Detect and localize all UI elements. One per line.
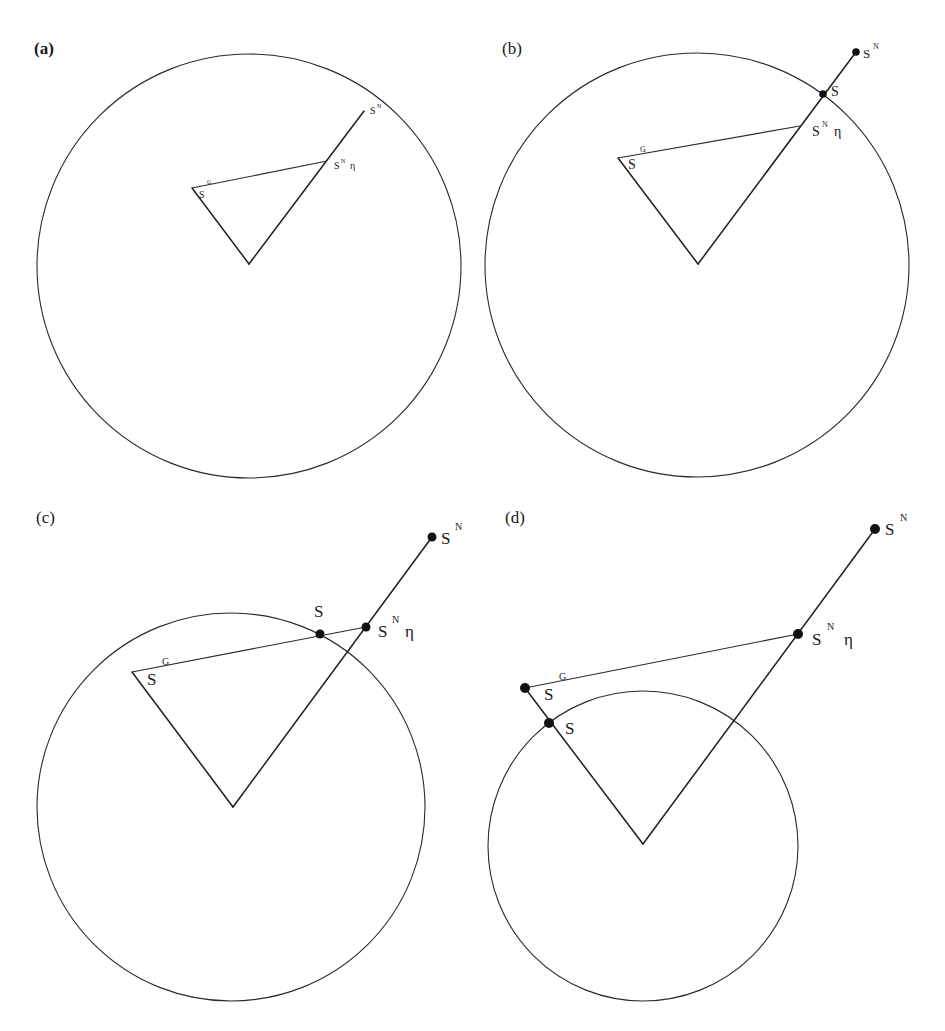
point-label-sg-b: S G [628, 145, 646, 172]
edge-apex-to-sg-b [618, 158, 698, 264]
svg-text:η: η [844, 630, 853, 649]
point-label-sg-a: S G [199, 179, 212, 200]
svg-text:G: G [207, 179, 212, 185]
svg-text:S: S [370, 105, 376, 116]
point-s-dot-d [544, 718, 554, 728]
svg-text:S: S [147, 670, 156, 689]
point-sneta-dot-d [793, 629, 803, 639]
point-label-s-b: S [831, 84, 839, 99]
svg-text:N: N [873, 42, 879, 51]
svg-text:N: N [392, 614, 399, 625]
point-sn-dot-b [852, 48, 860, 56]
point-label-sn-c: S N [441, 521, 462, 548]
constraint-circle-a [37, 54, 461, 478]
panel-d: (d) S G S S N η S N [488, 508, 907, 1001]
edge-apex-to-sg-d [525, 688, 643, 844]
point-sg-dot-d [520, 683, 530, 693]
panel-c: (c) S G S S N η S N [36, 508, 462, 1001]
constraint-circle-b [485, 53, 909, 477]
point-s-dot-b [819, 90, 827, 98]
svg-text:S: S [565, 719, 574, 738]
point-label-s-d: S [565, 719, 574, 738]
svg-text:S: S [863, 46, 870, 61]
svg-text:N: N [822, 120, 828, 129]
panel-label-b: (b) [502, 39, 522, 58]
svg-text:G: G [640, 145, 646, 154]
svg-text:N: N [827, 621, 834, 632]
point-label-sneta-c: S N η [378, 614, 414, 641]
point-label-sn-b: S N [863, 42, 879, 61]
constraint-circle-d [488, 691, 798, 1001]
point-sn-dot-c [428, 533, 437, 542]
svg-text:S: S [885, 520, 894, 539]
edge-apex-to-sn-c [233, 537, 432, 807]
constraint-circle-c [37, 613, 425, 1001]
point-sneta-dot-c [362, 623, 371, 632]
svg-text:S: S [544, 685, 553, 704]
point-label-sneta-d: S N η [812, 621, 853, 649]
point-label-sn-d: S N [885, 512, 907, 539]
panel-b: (b) S G S N η S S N [485, 39, 909, 477]
svg-text:G: G [559, 671, 566, 682]
svg-text:N: N [455, 521, 462, 532]
svg-text:N: N [900, 512, 907, 523]
svg-text:S: S [812, 630, 821, 649]
point-label-s-c: S [314, 602, 323, 621]
svg-text:N: N [377, 103, 382, 109]
panel-label-d: (d) [505, 508, 525, 527]
svg-text:S: S [628, 157, 636, 172]
panel-a: (a) S G S N η S N [34, 39, 461, 478]
svg-text:η: η [350, 160, 355, 171]
svg-text:G: G [162, 656, 169, 667]
svg-text:N: N [341, 158, 346, 164]
svg-text:S: S [314, 602, 323, 621]
edge-apex-to-sg-c [132, 672, 233, 807]
svg-text:S: S [199, 189, 205, 200]
svg-text:S: S [334, 160, 340, 171]
point-label-sg-d: S G [544, 671, 566, 704]
svg-text:η: η [405, 622, 414, 641]
svg-text:S: S [441, 529, 450, 548]
point-label-sneta-b: S N η [812, 120, 841, 139]
edge-apex-to-sn-d [643, 529, 875, 844]
panel-label-c: (c) [36, 508, 55, 527]
point-label-sneta-a: S N η [334, 158, 355, 171]
panel-label-a: (a) [34, 39, 54, 58]
svg-text:S: S [812, 124, 820, 139]
svg-text:S: S [831, 84, 839, 99]
point-sn-dot-d [870, 524, 880, 534]
edge-sg-to-sneta-a [192, 161, 327, 188]
point-label-sn-a: S N [370, 103, 382, 116]
edge-apex-to-sn-a [249, 111, 364, 264]
svg-text:η: η [834, 124, 841, 139]
figure-canvas: (a) S G S N η S N (b) S G S [0, 0, 945, 1031]
svg-text:S: S [378, 622, 387, 641]
point-label-sg-c: S G [147, 656, 169, 689]
point-s-dot-c [316, 630, 325, 639]
